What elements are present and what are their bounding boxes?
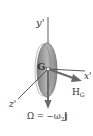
omega-arrowhead [45,100,52,109]
omega-equation-main: Ω = −ω [27,111,61,121]
omega-equation: Ω = −ω2j [27,111,67,122]
disk-diagram: y' G x' z' HG Ω = −ω2j [0,0,93,136]
angular-momentum-symbol: H [72,87,80,97]
angular-momentum-label: HG [72,87,85,98]
z-axis-label: z' [8,99,16,109]
center-point-marker [47,68,50,71]
y-axis-label: y' [35,17,44,28]
center-label: G [37,61,46,72]
omega-unit-vector: j [63,111,67,121]
angular-momentum-subscript: G [80,91,85,98]
angular-momentum-arrowhead [71,74,82,82]
x-axis-label: x' [84,71,92,81]
